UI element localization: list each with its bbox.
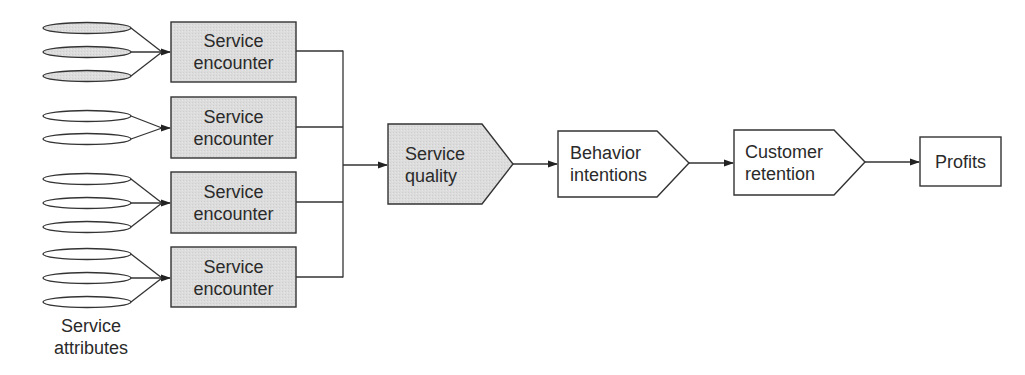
attribute-group-3	[43, 174, 170, 233]
service-attributes-label: attributes	[54, 338, 128, 358]
svg-text:encounter: encounter	[193, 129, 273, 149]
encounter-bus-connector	[296, 51, 387, 278]
service-quality-node: Service quality	[388, 124, 513, 204]
svg-text:retention: retention	[745, 164, 815, 184]
attribute-group-2	[43, 111, 170, 145]
svg-text:Service: Service	[203, 257, 263, 277]
service-attributes-label: Service	[61, 316, 121, 336]
attribute-ellipse	[43, 134, 131, 145]
svg-text:quality: quality	[405, 166, 457, 186]
attribute-ellipse	[43, 23, 131, 34]
attribute-group-4	[43, 249, 170, 308]
service-encounter-box-1: Service encounter	[171, 22, 296, 82]
attribute-ellipse	[43, 249, 131, 260]
attribute-group-1	[43, 23, 170, 82]
diagram-canvas: Service attributes Service encounter Ser…	[0, 0, 1025, 375]
customer-retention-node: Customer retention	[734, 130, 865, 195]
service-encounter-box-2: Service encounter	[171, 97, 296, 158]
profits-node: Profits	[920, 137, 1001, 186]
svg-text:Service: Service	[203, 107, 263, 127]
attribute-ellipse	[43, 198, 131, 209]
svg-text:Service: Service	[203, 31, 263, 51]
svg-text:Service: Service	[203, 182, 263, 202]
service-encounter-box-3: Service encounter	[171, 172, 296, 233]
svg-text:Behavior: Behavior	[570, 143, 641, 163]
svg-text:Service: Service	[405, 144, 465, 164]
attribute-ellipse	[43, 222, 131, 233]
svg-text:intentions: intentions	[570, 165, 647, 185]
attribute-ellipse	[43, 71, 131, 82]
svg-text:Customer: Customer	[745, 142, 823, 162]
attribute-ellipse	[43, 174, 131, 185]
attribute-ellipse	[43, 111, 131, 122]
attribute-ellipse	[43, 47, 131, 58]
behavior-intentions-node: Behavior intentions	[558, 131, 689, 197]
attribute-ellipse	[43, 297, 131, 308]
service-encounter-box-4: Service encounter	[171, 247, 296, 307]
svg-text:encounter: encounter	[193, 204, 273, 224]
svg-text:encounter: encounter	[193, 279, 273, 299]
svg-text:encounter: encounter	[193, 53, 273, 73]
svg-text:Profits: Profits	[935, 152, 986, 172]
attribute-ellipse	[43, 273, 131, 284]
